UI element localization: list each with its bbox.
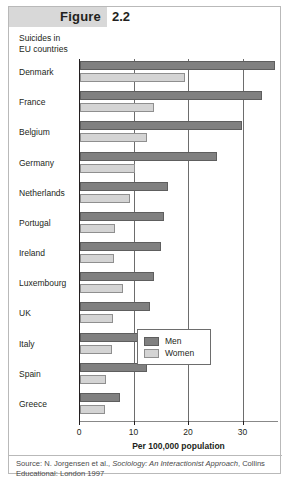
- category-label-france: France: [19, 97, 45, 107]
- bar-women-spain: [80, 375, 106, 384]
- tick-mark-0: [79, 421, 80, 425]
- tick-mark-10: [134, 421, 135, 425]
- bar-women-germany: [80, 164, 135, 173]
- bar-group: Denmark: [9, 59, 282, 89]
- bar-men-uk: [80, 302, 150, 311]
- bar-women-portugal: [80, 224, 115, 233]
- figure-card: Figure 2.2 Suicides in EU countries 0102…: [8, 6, 281, 474]
- tick-label-0: 0: [64, 427, 94, 437]
- chart-subtitle: Suicides in EU countries: [19, 33, 68, 55]
- bar-group: UK: [9, 300, 282, 330]
- bar-women-france: [80, 103, 154, 112]
- bar-group: Greece: [9, 391, 282, 421]
- figure-header: Figure 2.2: [9, 7, 282, 27]
- bar-men-belgium: [80, 121, 242, 130]
- bar-group: Ireland: [9, 240, 282, 270]
- category-label-germany: Germany: [19, 158, 54, 168]
- bar-women-ireland: [80, 254, 114, 263]
- bar-women-netherlands: [80, 194, 130, 203]
- chart-plot-area: 0102030 DenmarkFranceBelgiumGermanyNethe…: [9, 59, 282, 429]
- category-label-netherlands: Netherlands: [19, 188, 65, 198]
- bar-women-greece: [80, 405, 105, 414]
- source-divider: [9, 455, 282, 456]
- bar-group: Portugal: [9, 210, 282, 240]
- source-title: Sociology: An Interactionist Approach: [112, 459, 238, 468]
- chart-subtitle-line2: EU countries: [19, 44, 68, 55]
- bar-men-greece: [80, 393, 120, 402]
- category-label-denmark: Denmark: [19, 67, 53, 77]
- legend-label-men: Men: [165, 336, 182, 346]
- category-label-luxembourg: Luxembourg: [19, 278, 66, 288]
- x-axis-line: [79, 421, 278, 422]
- legend-swatch-men-icon: [144, 337, 159, 346]
- category-label-spain: Spain: [19, 369, 41, 379]
- chart-subtitle-line1: Suicides in: [19, 33, 68, 44]
- bar-group: Belgium: [9, 119, 282, 149]
- category-label-uk: UK: [19, 308, 31, 318]
- bar-men-france: [80, 91, 262, 100]
- bar-group: Netherlands: [9, 180, 282, 210]
- legend-swatch-women-icon: [144, 349, 159, 358]
- legend-item-women: Women: [144, 347, 204, 359]
- chart-legend: Men Women: [137, 329, 211, 365]
- source-prefix: Source: N. Jorgensen et al.,: [16, 459, 112, 468]
- category-label-portugal: Portugal: [19, 218, 51, 228]
- bar-group: Spain: [9, 361, 282, 391]
- legend-label-women: Women: [165, 348, 194, 358]
- figure-number: 2.2: [112, 9, 130, 24]
- tick-mark-30: [243, 421, 244, 425]
- tick-mark-20: [188, 421, 189, 425]
- bar-women-luxembourg: [80, 284, 123, 293]
- figure-label: Figure: [9, 9, 101, 24]
- legend-item-men: Men: [144, 335, 204, 347]
- bar-men-ireland: [80, 242, 161, 251]
- x-axis-title: Per 100,000 population: [79, 441, 278, 451]
- bar-men-luxembourg: [80, 272, 154, 281]
- category-label-ireland: Ireland: [19, 248, 45, 258]
- category-label-belgium: Belgium: [19, 127, 50, 137]
- bar-women-italy: [80, 345, 112, 354]
- source-note: Source: N. Jorgensen et al., Sociology: …: [16, 459, 278, 479]
- category-label-greece: Greece: [19, 399, 47, 409]
- bar-men-germany: [80, 152, 217, 161]
- tick-label-10: 10: [119, 427, 149, 437]
- tick-label-30: 30: [228, 427, 258, 437]
- bar-group: France: [9, 89, 282, 119]
- category-label-italy: Italy: [19, 339, 35, 349]
- bar-women-uk: [80, 314, 113, 323]
- bar-group: Luxembourg: [9, 270, 282, 300]
- tick-label-20: 20: [173, 427, 203, 437]
- bar-men-portugal: [80, 212, 164, 221]
- bar-men-netherlands: [80, 182, 168, 191]
- bar-men-denmark: [80, 61, 275, 70]
- bar-women-denmark: [80, 73, 185, 82]
- bar-women-belgium: [80, 133, 147, 142]
- bar-group: Germany: [9, 150, 282, 180]
